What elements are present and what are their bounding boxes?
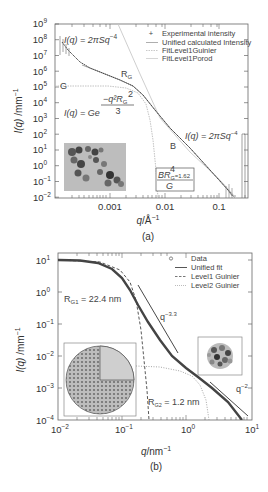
- svg-text:I(q) = Ge: I(q) = Ge: [64, 108, 100, 118]
- chart-b-x-axis-label: q/nm−1: [141, 445, 171, 457]
- svg-text:RG1 = 22.4 nm: RG1 = 22.4 nm: [64, 294, 121, 305]
- svg-text:Data: Data: [191, 254, 208, 263]
- svg-text:0.001: 0.001: [98, 201, 122, 212]
- chart-a-y-tick-labels: 109 108 107 106 105 104 103 102 101 100 …: [33, 17, 52, 203]
- svg-text:G: G: [60, 81, 67, 91]
- svg-text:104: 104: [33, 96, 48, 108]
- svg-text:10−2: 10−2: [33, 191, 51, 203]
- chart-b: 101 100 10−1 10−2 10−3 10−4 10−2 10−1 10…: [14, 253, 259, 472]
- svg-text:101: 101: [36, 254, 51, 266]
- chart-a-x-axis-label: q/Å−1: [137, 214, 160, 226]
- svg-text:10−1: 10−1: [36, 318, 54, 330]
- svg-text:4: 4: [170, 164, 175, 174]
- chart-b-caption: (b): [150, 461, 162, 472]
- svg-text:107: 107: [33, 49, 48, 61]
- svg-text:102: 102: [33, 128, 48, 140]
- chart-a-x-tick-labels: 0.001 0.01 0.1: [98, 201, 226, 212]
- chart-b-y-tick-labels: 101 100 10−1 10−2 10−3 10−4: [36, 254, 55, 426]
- svg-text:B: B: [170, 141, 176, 151]
- svg-text:RG2 = 1.2 nm: RG2 = 1.2 nm: [148, 397, 200, 408]
- svg-text:G: G: [166, 181, 173, 191]
- chart-b-x-tick-labels: 10−2 10−1 100 101: [51, 423, 259, 435]
- svg-text:I(q) = 2πSq−4: I(q) = 2πSq−4: [185, 130, 238, 141]
- svg-text:103: 103: [33, 112, 48, 124]
- svg-text:FitLevel1Porod: FitLevel1Porod: [162, 54, 212, 63]
- svg-text:I(q) = 2πSq−4: I(q) = 2πSq−4: [64, 33, 118, 45]
- chart-a-legend: + Experimental intensity Unified calcula…: [146, 29, 251, 63]
- svg-text:10−1: 10−1: [33, 175, 51, 187]
- svg-text:q−3.3: q−3.3: [160, 311, 178, 322]
- svg-text:−q²RG: −q²RG: [103, 94, 128, 105]
- svg-text:2: 2: [128, 89, 133, 99]
- chart-a-caption: (a): [142, 231, 154, 242]
- svg-text:q−2: q−2: [236, 383, 249, 394]
- svg-text:3: 3: [115, 106, 120, 116]
- svg-text:10−1: 10−1: [115, 423, 133, 435]
- chart-b-inset-porous-sphere: [64, 343, 136, 416]
- svg-text:109: 109: [33, 17, 48, 29]
- chart-a-inset-tem-image: [64, 143, 126, 191]
- chart-a-y-axis-label: I(q) /mm−1: [12, 88, 24, 133]
- chart-a: 109 108 107 106 105 104 103 102 101 100 …: [12, 17, 251, 242]
- svg-text:101: 101: [245, 423, 260, 435]
- svg-text:105: 105: [33, 80, 48, 92]
- svg-text:Experimental intensity: Experimental intensity: [162, 29, 236, 38]
- figure: 109 108 107 106 105 104 103 102 101 100 …: [0, 0, 268, 492]
- svg-text:10−2: 10−2: [36, 350, 54, 362]
- svg-text:10−3: 10−3: [36, 382, 54, 394]
- svg-text:Level1 Guinier: Level1 Guinier: [191, 272, 240, 281]
- svg-text:108: 108: [33, 33, 48, 45]
- svg-text:101: 101: [33, 143, 48, 155]
- svg-text:0.01: 0.01: [156, 201, 175, 212]
- svg-text:100: 100: [36, 286, 51, 298]
- chart-b-slope-line-q-3.3: [138, 285, 178, 353]
- svg-text:Level2 Guinier: Level2 Guinier: [191, 281, 240, 290]
- svg-text:RG: RG: [121, 69, 133, 80]
- svg-text:106: 106: [33, 65, 48, 77]
- chart-b-legend: Data Unified fit Level1 Guinier Level2 G…: [169, 254, 239, 290]
- chart-a-error-bars-high-q: [226, 184, 232, 198]
- svg-text:10−2: 10−2: [51, 423, 69, 435]
- svg-text:+: +: [149, 29, 154, 38]
- svg-text:Unified fit: Unified fit: [191, 263, 223, 272]
- svg-text:100: 100: [181, 423, 196, 435]
- svg-text:100: 100: [33, 159, 48, 171]
- chart-b-inset-cluster: [198, 337, 242, 375]
- chart-b-y-axis-label: I(q) /mm−1: [14, 327, 26, 372]
- svg-text:0.1: 0.1: [212, 201, 225, 212]
